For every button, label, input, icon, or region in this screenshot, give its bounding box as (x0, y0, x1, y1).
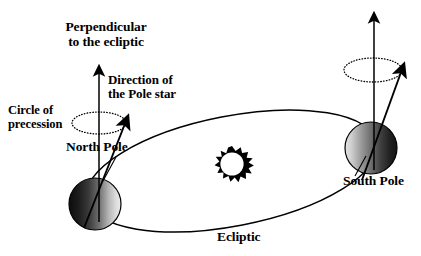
earth-right-sphere (345, 122, 397, 174)
label-direction-line1: Direction of (108, 72, 173, 87)
label-circle-line1: Circle of (8, 103, 53, 117)
label-north-pole: North Pole (66, 140, 128, 155)
label-perpendicular-line2: to the ecliptic (68, 34, 144, 49)
earth-left-group (69, 178, 121, 230)
earth-left-sphere (69, 178, 121, 230)
label-circle-of-precession: Circle ofprecession (8, 104, 74, 131)
label-perpendicular-to-ecliptic: Perpendicularto the ecliptic (40, 20, 172, 49)
precession-ellipse-right (344, 58, 402, 82)
earth-right-group (345, 122, 397, 174)
label-direction-of-pole-star: Direction ofthe Pole star (108, 73, 216, 101)
label-south-pole: South Pole (343, 174, 404, 189)
label-perpendicular-line1: Perpendicular (65, 19, 146, 34)
diagram-canvas: Perpendicularto the ecliptic Direction o… (0, 0, 421, 256)
sun-core (220, 152, 243, 175)
label-direction-line2: the Pole star (108, 86, 176, 101)
label-ecliptic: Ecliptic (217, 230, 260, 245)
sun-group (215, 146, 254, 182)
label-circle-line2: precession (8, 117, 62, 131)
